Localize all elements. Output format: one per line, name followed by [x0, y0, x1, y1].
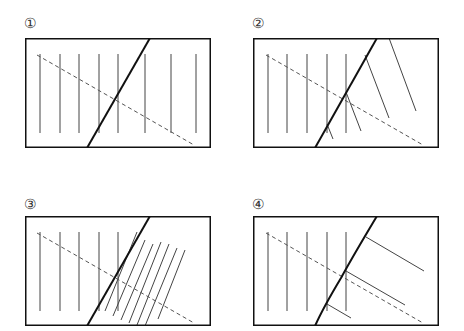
panel-4-figure	[253, 216, 439, 326]
displaced-stratum-line	[389, 38, 416, 111]
displaced-stratum-line	[346, 271, 405, 305]
panel-1-figure	[25, 38, 211, 148]
displaced-stratum-line	[121, 244, 153, 320]
dashed-reference-line	[266, 55, 423, 145]
displaced-stratum-line	[365, 55, 389, 118]
panel-2-figure	[253, 38, 439, 148]
displaced-stratum-line	[145, 248, 177, 326]
displaced-stratum-line	[366, 237, 424, 271]
displaced-stratum-line	[137, 244, 169, 325]
panel-3-figure	[25, 216, 211, 326]
panel-4-label: ④	[252, 197, 265, 211]
panel-1-label: ①	[24, 16, 37, 30]
displaced-stratum-line	[327, 304, 351, 318]
dashed-reference-line	[266, 233, 423, 323]
panel-2-label: ②	[252, 16, 265, 30]
panel-3-label: ③	[24, 197, 37, 211]
displaced-stratum-line	[129, 242, 161, 323]
displaced-stratum-line	[346, 92, 361, 131]
